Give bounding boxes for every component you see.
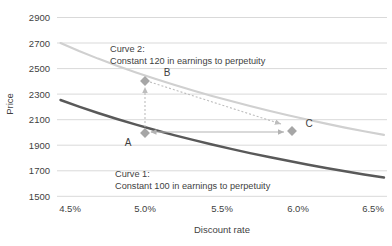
y-axis-tick-labels: 2900 2700 2500 2300 2100 1900 1700 1500 bbox=[29, 12, 50, 202]
curve1-annotation-line2: Constant 100 in earnings to perpetuity bbox=[115, 181, 271, 191]
x-tick-label: 5.0% bbox=[134, 203, 156, 214]
x-tick-label: 4.5% bbox=[59, 203, 81, 214]
x-tick-label: 6.0% bbox=[287, 203, 309, 214]
y-tick-label: 2100 bbox=[29, 114, 50, 125]
curve2-annotation-line2: Constant 120 in earnings to perpetuity bbox=[110, 56, 266, 66]
curve1-annotation-line1: Curve 1: bbox=[115, 169, 150, 179]
chart-canvas: 2900 2700 2500 2300 2100 1900 1700 1500 … bbox=[0, 0, 392, 246]
y-tick-label: 2500 bbox=[29, 63, 50, 74]
y-tick-label: 2300 bbox=[29, 89, 50, 100]
y-tick-label: 1700 bbox=[29, 165, 50, 176]
point-label-a: A bbox=[125, 137, 132, 148]
y-tick-label: 1900 bbox=[29, 140, 50, 151]
curve2-annotation-line1: Curve 2: bbox=[110, 44, 145, 54]
y-tick-label: 2900 bbox=[29, 12, 50, 23]
plot-area bbox=[57, 12, 387, 196]
x-axis-title: Discount rate bbox=[194, 224, 250, 235]
x-tick-label: 5.5% bbox=[211, 203, 233, 214]
chart-container: 2900 2700 2500 2300 2100 1900 1700 1500 … bbox=[0, 0, 392, 246]
point-label-c: C bbox=[305, 118, 312, 129]
y-tick-label: 1500 bbox=[29, 191, 50, 202]
x-axis-tick-labels: 4.5% 5.0% 5.5% 6.0% 6.5% bbox=[59, 203, 384, 214]
point-label-b: B bbox=[164, 67, 171, 78]
y-axis-title: Price bbox=[4, 93, 15, 115]
x-tick-label: 6.5% bbox=[362, 203, 384, 214]
y-tick-label: 2700 bbox=[29, 38, 50, 49]
